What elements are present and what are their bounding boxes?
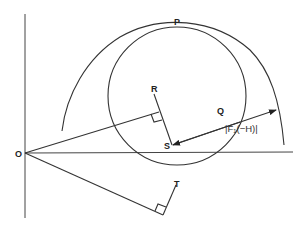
line-O-to-RS-foot xyxy=(25,112,159,153)
diagram-canvas: O P Q R S T |F₁(−H)| xyxy=(0,0,301,231)
magnitude-label: |F₁(−H)| xyxy=(225,123,258,134)
horizontal-axis xyxy=(25,152,293,153)
segment-T xyxy=(163,185,176,215)
segment-R-S xyxy=(154,94,172,145)
line-O-to-T-foot xyxy=(25,153,163,215)
label-T: T xyxy=(174,179,180,189)
small-circle xyxy=(108,27,246,165)
right-angle-marker-t xyxy=(155,204,166,211)
label-R: R xyxy=(151,84,158,94)
label-S: S xyxy=(164,141,170,151)
label-P: P xyxy=(174,17,180,27)
label-O: O xyxy=(15,149,22,159)
label-Q: Q xyxy=(217,106,224,116)
right-angle-marker-rs xyxy=(151,114,162,122)
